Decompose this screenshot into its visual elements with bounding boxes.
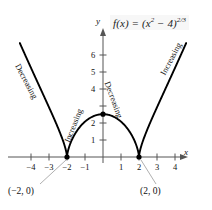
marker-right-cusp — [136, 154, 141, 159]
marker-left-cusp — [64, 154, 69, 159]
y-tick-label-4: 4 — [88, 84, 98, 94]
y-tick-label-1: 1 — [88, 135, 98, 145]
curve-branch-outer-left — [20, 43, 67, 157]
graph-figure: f(x) = (x2 − 4)2/3 x y −4−3−2−1123412456… — [0, 0, 212, 210]
y-axis-label: y — [96, 16, 100, 26]
x-tick-label-neg2: −2 — [58, 162, 76, 172]
point-label-left-cusp: (−2, 0) — [8, 186, 34, 196]
x-tick-label-1: 1 — [112, 162, 130, 172]
curve-branch-outer-right — [139, 43, 186, 157]
x-tick-label-2: 2 — [130, 162, 148, 172]
x-tick-label-4: 4 — [166, 162, 184, 172]
function-equation-lhs: f(x) = (x — [113, 17, 151, 29]
y-axis-arrow — [100, 28, 106, 36]
y-tick-label-5: 5 — [88, 67, 98, 77]
y-tick-label-2: 2 — [88, 118, 98, 128]
function-equation-label: f(x) = (x2 − 4)2/3 — [110, 15, 189, 30]
x-tick-label-neg3: −3 — [40, 162, 58, 172]
x-axis-label: x — [184, 147, 188, 157]
y-tick-label-6: 6 — [88, 50, 98, 60]
function-plot-svg — [0, 0, 212, 210]
function-equation-exponent-outer: 2/3 — [177, 16, 186, 24]
x-tick-label-neg4: −4 — [22, 162, 40, 172]
marker-local-max — [100, 112, 105, 117]
point-label-right-cusp: (2, 0) — [140, 186, 161, 196]
x-tick-label-3: 3 — [148, 162, 166, 172]
function-equation-mid: − 4) — [154, 17, 177, 29]
x-tick-label-neg1: −1 — [76, 162, 94, 172]
